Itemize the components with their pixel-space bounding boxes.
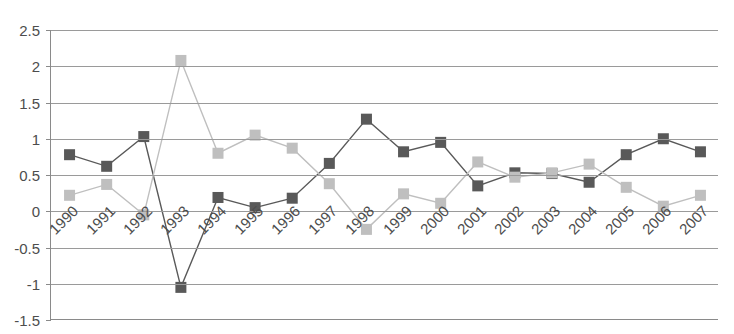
y-axis-labels: 2.521.510.50-0.5-1-1.5 [0, 0, 46, 334]
data-point-marker [64, 190, 75, 201]
y-tick-mark [46, 139, 51, 140]
y-tick-label: 2.5 [19, 23, 40, 38]
y-tick-mark [46, 320, 51, 321]
data-point-marker [472, 180, 483, 191]
data-point-marker [213, 192, 224, 203]
data-point-marker [101, 179, 112, 190]
chart-container: 2.521.510.50-0.5-1-1.5 19901991199219931… [0, 0, 734, 334]
data-point-marker [621, 149, 632, 160]
y-tick-label: 1.5 [19, 95, 40, 110]
gridline [51, 248, 718, 249]
y-tick-label: 0.5 [19, 168, 40, 183]
y-tick-label: 2 [32, 59, 40, 74]
y-tick-label: 0 [32, 204, 40, 219]
plot-area [50, 30, 718, 320]
data-point-marker [324, 158, 335, 169]
y-tick-label: 1 [32, 131, 40, 146]
gridline [51, 30, 718, 31]
data-point-marker [695, 190, 706, 201]
gridline [51, 103, 718, 104]
chart-title [0, 0, 734, 9]
data-point-marker [398, 188, 409, 199]
y-tick-label: -1.5 [14, 313, 40, 328]
data-point-marker [175, 55, 186, 66]
gridline [51, 175, 718, 176]
y-tick-label: -0.5 [14, 240, 40, 255]
data-point-marker [472, 156, 483, 167]
data-point-marker [324, 178, 335, 189]
data-point-marker [361, 114, 372, 125]
y-tick-mark [46, 284, 51, 285]
series-line [70, 60, 701, 229]
data-point-marker [584, 177, 595, 188]
data-point-marker [695, 146, 706, 157]
series-series-light [64, 55, 706, 235]
data-point-marker [287, 143, 298, 154]
data-point-marker [509, 172, 520, 183]
gridline [51, 284, 718, 285]
series-line [70, 119, 701, 287]
y-tick-mark [46, 30, 51, 31]
y-tick-mark [46, 103, 51, 104]
y-tick-mark [46, 66, 51, 67]
data-point-marker [584, 159, 595, 170]
y-tick-mark [46, 248, 51, 249]
data-point-marker [138, 131, 149, 142]
y-tick-mark [46, 211, 51, 212]
data-point-marker [398, 146, 409, 157]
data-point-marker [213, 148, 224, 159]
series-series-dark [64, 114, 706, 293]
data-point-marker [64, 149, 75, 160]
y-tick-label: -1 [27, 276, 40, 291]
data-point-marker [547, 167, 558, 178]
gridline [51, 66, 718, 67]
gridline [51, 139, 718, 140]
data-point-marker [621, 182, 632, 193]
y-tick-mark [46, 175, 51, 176]
data-point-marker [101, 161, 112, 172]
